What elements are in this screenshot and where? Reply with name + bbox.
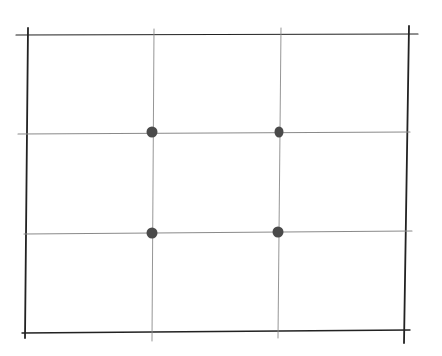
horizontal-grid-line	[24, 231, 412, 234]
border-left-line	[25, 28, 28, 338]
intersection-dot	[147, 228, 158, 239]
grid-diagram	[0, 0, 442, 356]
border-bottom-line	[22, 330, 410, 333]
grid-drawing	[0, 0, 442, 356]
intersection-dot	[147, 127, 158, 138]
intersection-dot	[273, 227, 284, 238]
vertical-grid-line	[152, 29, 154, 341]
outer-border	[16, 26, 418, 343]
intersection-dots	[147, 127, 284, 239]
border-top-line	[16, 34, 418, 35]
grid-lines	[18, 28, 412, 341]
vertical-grid-line	[278, 28, 281, 338]
border-right-line	[404, 26, 409, 343]
intersection-dot	[275, 127, 284, 138]
horizontal-grid-line	[18, 132, 410, 134]
